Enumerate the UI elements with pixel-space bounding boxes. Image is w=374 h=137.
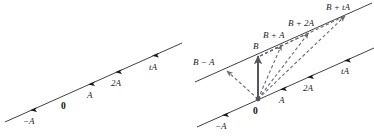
right-panel: −A 0 A 2A tA B − A B B + A B + 2A B + tA	[187, 0, 374, 137]
origin-marker	[256, 97, 261, 102]
right-label-b-minus-a: B − A	[193, 57, 215, 67]
right-label-ta: tA	[341, 66, 350, 76]
left-label-neg-a: −A	[23, 116, 35, 126]
marker-a	[280, 86, 287, 91]
marker-ta	[152, 53, 159, 58]
right-label-a: A	[278, 95, 285, 105]
left-panel: −A 0 A 2A tA	[0, 0, 187, 137]
left-label-origin: 0	[61, 101, 66, 111]
marker-neg-a	[222, 112, 229, 117]
marker-2a	[115, 69, 122, 74]
left-label-2a: 2A	[111, 78, 122, 88]
vector-diagram-figure: −A 0 A 2A tA	[0, 0, 374, 137]
marker-a	[88, 81, 95, 86]
marker-ta	[344, 58, 351, 63]
vector-b-minus-a	[227, 71, 258, 99]
right-label-b: B	[253, 41, 259, 51]
vector-b-plus-ta	[258, 16, 345, 99]
right-label-b-plus-2a: B + 2A	[288, 18, 315, 28]
right-label-2a: 2A	[303, 83, 314, 93]
marker-neg-a	[30, 107, 37, 112]
left-label-a: A	[86, 90, 93, 100]
right-label-origin: 0	[253, 106, 258, 116]
left-label-ta: tA	[149, 62, 158, 72]
right-label-b-plus-a: B + A	[263, 30, 285, 40]
right-label-b-plus-ta: B + tA	[326, 2, 351, 12]
right-label-neg-a: −A	[215, 121, 227, 131]
marker-2a	[307, 74, 314, 79]
